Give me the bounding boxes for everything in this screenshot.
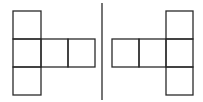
left-net-square-5 [68,39,95,67]
right-net [112,11,193,95]
right-net-square-2 [166,39,193,67]
right-net-square-5 [139,39,166,67]
left-net-square-2 [13,39,41,67]
right-net-square-4 [112,39,139,67]
right-net-square-3 [166,67,193,95]
left-net-square-1 [13,11,41,39]
cube-nets-diagram [0,0,203,102]
right-net-square-1 [166,11,193,39]
left-net-square-4 [41,39,68,67]
left-net [13,11,95,95]
left-net-square-3 [13,67,41,95]
